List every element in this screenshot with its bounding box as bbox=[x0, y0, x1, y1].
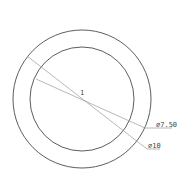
center-mark: 1 bbox=[80, 89, 84, 97]
outer-diameter-label: ⌀10 bbox=[148, 142, 161, 150]
inner-diameter-label: ⌀7.50 bbox=[156, 121, 177, 129]
leader-line-inner bbox=[36, 79, 172, 128]
technical-drawing: 1 ⌀7.50 ⌀10 bbox=[0, 0, 189, 182]
leader-line-outer bbox=[27, 56, 160, 149]
